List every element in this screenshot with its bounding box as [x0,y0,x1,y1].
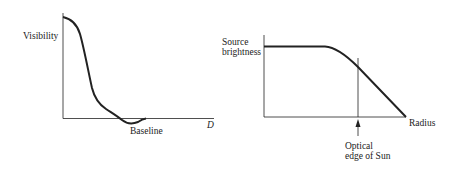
right-ylabel-line1: Source [222,37,248,47]
left-ylabel: Visibility [23,31,58,41]
arrow-up-icon [356,119,361,127]
diagram-canvas [0,0,453,169]
optical-edge-label-line1: Optical [345,141,373,151]
left-plot [63,13,214,123]
visibility-curve [63,17,146,123]
right-plot [264,35,406,136]
optical-edge-label-line2: edge of Sun [345,151,390,161]
right-ylabel-line2: brightness [222,47,261,57]
right-xlabel: Radius [409,118,435,128]
brightness-curve [264,47,406,118]
baseline-label: Baseline [130,126,163,136]
left-xlabel: D [207,120,214,130]
